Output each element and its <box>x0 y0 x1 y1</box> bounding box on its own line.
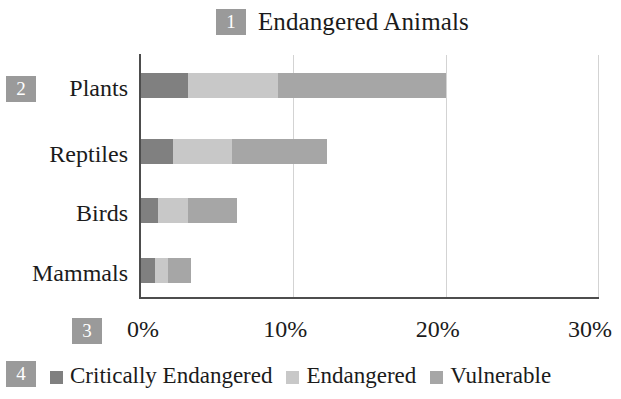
bar-segment-birds-critically-endangered[interactable] <box>141 198 158 223</box>
legend-label: Endangered <box>306 362 416 390</box>
bar-mammals[interactable] <box>141 258 191 283</box>
gridline-20pct <box>446 55 447 297</box>
value-label-20pct: 20% <box>416 314 460 344</box>
legend-item-endangered[interactable]: Endangered <box>286 362 416 390</box>
bar-segment-reptiles-critically-endangered[interactable] <box>141 139 173 164</box>
value-label-0pct: 0% <box>127 314 159 344</box>
bar-segment-mammals-vulnerable[interactable] <box>168 258 191 283</box>
legend-label: Vulnerable <box>450 362 551 390</box>
bar-segment-reptiles-endangered[interactable] <box>173 139 232 164</box>
chart-container: 1 Endangered Animals 2 3 4 PlantsReptile… <box>0 0 621 399</box>
annotation-marker-4: 4 <box>6 361 36 387</box>
bar-segment-reptiles-vulnerable[interactable] <box>232 139 326 164</box>
category-label-reptiles: Reptiles <box>28 140 128 168</box>
value-label-10pct: 10% <box>263 314 307 344</box>
annotation-marker-3: 3 <box>72 318 102 344</box>
chart-title: Endangered Animals <box>258 5 469 39</box>
plot-area <box>141 55 598 297</box>
bar-segment-mammals-critically-endangered[interactable] <box>141 258 155 283</box>
chart-legend: Critically EndangeredEndangeredVulnerabl… <box>50 362 551 390</box>
bar-reptiles[interactable] <box>141 139 327 164</box>
bar-segment-plants-critically-endangered[interactable] <box>141 73 188 98</box>
legend-swatch-icon <box>50 371 63 384</box>
bar-segment-mammals-endangered[interactable] <box>155 258 169 283</box>
category-label-birds: Birds <box>28 199 128 227</box>
legend-item-critically-endangered[interactable]: Critically Endangered <box>50 362 272 390</box>
category-label-mammals: Mammals <box>28 259 128 287</box>
bar-segment-plants-endangered[interactable] <box>188 73 278 98</box>
legend-swatch-icon <box>286 371 299 384</box>
value-label-30pct: 30% <box>568 314 612 344</box>
bar-segment-plants-vulnerable[interactable] <box>278 73 446 98</box>
bar-birds[interactable] <box>141 198 237 223</box>
legend-item-vulnerable[interactable]: Vulnerable <box>430 362 551 390</box>
bar-segment-birds-vulnerable[interactable] <box>188 198 237 223</box>
bar-segment-birds-endangered[interactable] <box>158 198 188 223</box>
legend-swatch-icon <box>430 371 443 384</box>
gridline-30pct <box>598 55 599 297</box>
category-label-plants: Plants <box>28 74 128 102</box>
annotation-marker-1: 1 <box>216 9 246 35</box>
x-axis-line <box>139 297 599 299</box>
bar-plants[interactable] <box>141 73 446 98</box>
legend-label: Critically Endangered <box>70 362 272 390</box>
